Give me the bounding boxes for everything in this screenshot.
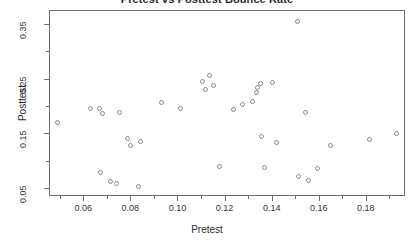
x-axis-minor-tick — [389, 196, 390, 199]
x-axis-minor-tick — [60, 196, 61, 199]
x-axis-minor-tick — [154, 196, 155, 199]
y-axis-tick-label: 0.35 — [18, 21, 28, 39]
x-axis-tick-label: 0.08 — [122, 203, 140, 213]
plot-frame — [49, 10, 405, 196]
x-axis-tick-label: 0.18 — [357, 203, 375, 213]
x-axis-minor-tick — [248, 196, 249, 199]
y-axis-tick-label: 0.15 — [18, 131, 28, 149]
x-axis-tick-label: 0.14 — [263, 203, 281, 213]
x-axis-tick — [272, 196, 273, 201]
y-axis-tick — [44, 79, 49, 80]
x-axis-minor-tick — [201, 196, 202, 199]
y-axis-tick-label: 0.05 — [18, 186, 28, 204]
scatter-plot-figure: Pretest vs Posttest Bounce Rate 0.060.08… — [0, 0, 414, 246]
y-axis-minor-tick — [46, 106, 49, 107]
x-axis-tick-label: 0.06 — [74, 203, 92, 213]
x-axis-tick — [177, 196, 178, 201]
y-axis-label: Posttest — [17, 85, 28, 121]
x-axis-tick-label: 0.12 — [216, 203, 234, 213]
y-axis-minor-tick — [46, 51, 49, 52]
y-axis-tick — [44, 24, 49, 25]
x-axis-tick-label: 0.16 — [310, 203, 328, 213]
x-axis-label: Pretest — [0, 224, 414, 235]
x-axis-tick — [83, 196, 84, 201]
x-axis-tick — [225, 196, 226, 201]
x-axis-tick — [130, 196, 131, 201]
y-axis-minor-tick — [46, 161, 49, 162]
chart-title: Pretest vs Posttest Bounce Rate — [0, 0, 414, 5]
x-axis-minor-tick — [107, 196, 108, 199]
y-axis-tick — [44, 188, 49, 189]
x-axis-tick — [366, 196, 367, 201]
y-axis-tick — [44, 133, 49, 134]
x-axis-tick — [319, 196, 320, 201]
x-axis-minor-tick — [342, 196, 343, 199]
x-axis-tick-label: 0.10 — [169, 203, 187, 213]
x-axis-minor-tick — [295, 196, 296, 199]
